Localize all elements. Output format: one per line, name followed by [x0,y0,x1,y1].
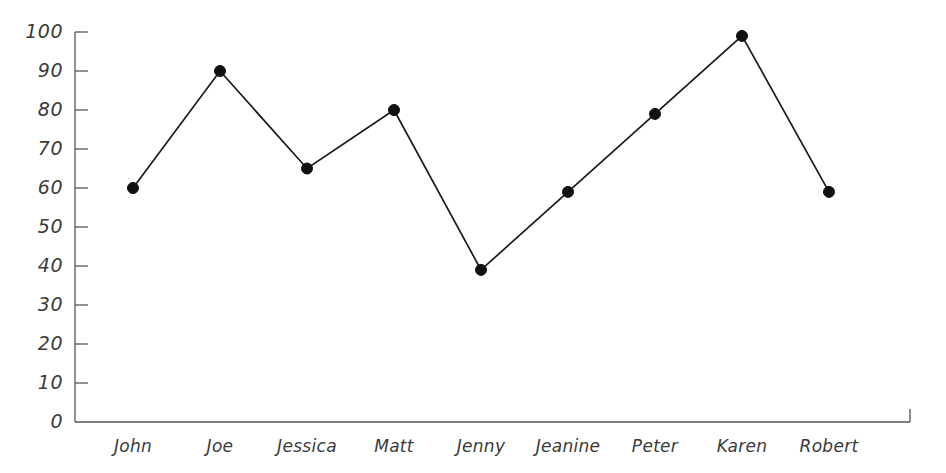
data-point-marker [737,30,748,41]
y-axis-tick-label: 30 [38,295,63,314]
y-axis-tick-label: 40 [38,256,63,275]
y-axis-tick-label: 20 [38,334,63,353]
y-axis-tick-label: 10 [38,373,63,392]
data-line [133,36,829,270]
data-point-marker [476,264,487,275]
data-point-marker [128,183,139,194]
axis-layer [75,32,910,422]
y-axis-tick-label: 0 [50,412,63,431]
y-axis-tick-label: 50 [38,217,63,236]
chart-canvas [0,0,946,473]
data-point-marker [563,186,574,197]
data-point-marker [215,66,226,77]
y-axis-tick-label: 100 [25,22,63,41]
x-axis-tick-label: Robert [769,438,889,455]
data-point-marker [824,186,835,197]
data-point-marker [302,163,313,174]
data-point-markers [128,30,835,275]
line-chart: 0102030405060708090100 JohnJoeJessicaMat… [0,0,946,473]
y-axis-tick-label: 80 [38,100,63,119]
data-point-marker [650,108,661,119]
data-series-layer [133,36,829,270]
y-axis-tick-label: 70 [38,139,63,158]
data-point-marker [389,105,400,116]
y-axis-tick-label: 90 [38,61,63,80]
y-axis-tick-label: 60 [38,178,63,197]
